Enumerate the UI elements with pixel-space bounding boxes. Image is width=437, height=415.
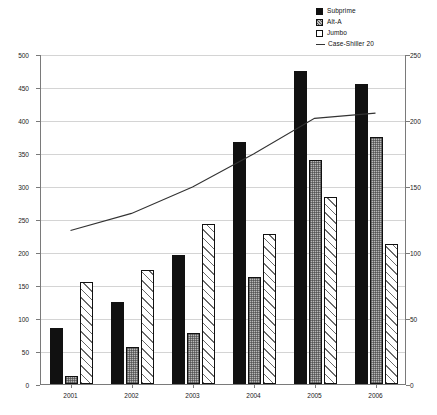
y-axis-left-tick-mark bbox=[36, 220, 40, 221]
bar-alt-a bbox=[65, 376, 78, 384]
y-axis-left-tick-mark bbox=[36, 286, 40, 287]
y-axis-left-tick-mark bbox=[36, 154, 40, 155]
bar-subprime bbox=[294, 71, 307, 385]
y-axis-left-tick-mark bbox=[36, 253, 40, 254]
y-axis-right-tick-label: 150 bbox=[410, 184, 436, 191]
y-axis-right-tick-label: 50 bbox=[410, 316, 436, 323]
y-axis-left-tick-label: 200 bbox=[0, 250, 29, 257]
y-axis-right-tick-mark bbox=[406, 385, 410, 386]
bar-jumbo bbox=[263, 234, 276, 384]
y-axis-right-tick-mark bbox=[406, 319, 410, 320]
y-axis-left-tick-label: 0 bbox=[0, 382, 29, 389]
y-axis-left-tick-mark bbox=[36, 319, 40, 320]
open-square-icon bbox=[316, 30, 323, 37]
gridline bbox=[41, 55, 405, 56]
x-axis-tick-label: 2003 bbox=[163, 392, 223, 399]
y-axis-right-tick-label: 200 bbox=[410, 118, 436, 125]
legend-label: Subprime bbox=[327, 7, 356, 15]
bar-jumbo bbox=[80, 282, 93, 384]
bar-jumbo bbox=[202, 224, 215, 384]
y-axis-right-tick-label: 100 bbox=[410, 250, 436, 257]
x-axis-tick-mark bbox=[193, 385, 194, 388]
y-axis-left-tick-label: 450 bbox=[0, 85, 29, 92]
x-axis-tick-mark bbox=[376, 385, 377, 388]
gridline bbox=[41, 319, 405, 320]
legend-label: Jumbo bbox=[327, 29, 347, 37]
gridline bbox=[41, 286, 405, 287]
y-axis-right-tick-mark bbox=[406, 121, 410, 122]
x-axis-tick-label: 2005 bbox=[285, 392, 345, 399]
x-axis-tick-mark bbox=[254, 385, 255, 388]
y-axis-left-tick-label: 350 bbox=[0, 151, 29, 158]
bar-subprime bbox=[355, 84, 368, 384]
y-axis-left-tick-label: 250 bbox=[0, 217, 29, 224]
x-axis-tick-mark bbox=[71, 385, 72, 388]
gridline bbox=[41, 154, 405, 155]
legend-item-case-shiller-20: Case-Shiller 20 bbox=[316, 39, 374, 49]
y-axis-left-tick-label: 500 bbox=[0, 52, 29, 59]
gridline bbox=[41, 220, 405, 221]
gridline bbox=[41, 88, 405, 89]
x-axis-tick-label: 2006 bbox=[346, 392, 406, 399]
plot-area bbox=[40, 55, 406, 385]
x-axis-tick-mark bbox=[132, 385, 133, 388]
legend-label: Case-Shiller 20 bbox=[328, 40, 374, 48]
y-axis-left-tick-label: 300 bbox=[0, 184, 29, 191]
x-axis-tick-label: 2001 bbox=[41, 392, 101, 399]
x-axis-tick-label: 2004 bbox=[224, 392, 284, 399]
gridline bbox=[41, 187, 405, 188]
bar-subprime bbox=[172, 255, 185, 384]
gridline bbox=[41, 352, 405, 353]
y-axis-left-tick-mark bbox=[36, 55, 40, 56]
y-axis-left-tick-mark bbox=[36, 385, 40, 386]
y-axis-left-tick-mark bbox=[36, 187, 40, 188]
bar-alt-a bbox=[248, 277, 261, 384]
bar-subprime bbox=[50, 328, 63, 384]
crosshatch-square-icon bbox=[316, 19, 323, 26]
filled-square-icon bbox=[316, 8, 323, 15]
y-axis-right-tick-label: 250 bbox=[410, 52, 436, 59]
x-axis-tick-mark bbox=[315, 385, 316, 388]
bar-jumbo bbox=[324, 197, 337, 384]
y-axis-right-tick-mark bbox=[406, 187, 410, 188]
line-marker-icon bbox=[316, 44, 325, 45]
bar-subprime bbox=[233, 142, 246, 384]
bar-jumbo bbox=[141, 270, 154, 384]
bar-alt-a bbox=[370, 137, 383, 385]
y-axis-right-tick-mark bbox=[406, 55, 410, 56]
bar-jumbo bbox=[385, 244, 398, 384]
y-axis-left-tick-label: 400 bbox=[0, 118, 29, 125]
legend-item-alt-a: Alt-A bbox=[316, 17, 374, 27]
bar-alt-a bbox=[309, 160, 322, 384]
bar-alt-a bbox=[187, 333, 200, 384]
chart-legend: Subprime Alt-A Jumbo Case-Shiller 20 bbox=[316, 6, 374, 49]
bar-alt-a bbox=[126, 347, 139, 384]
chart-container: Subprime Alt-A Jumbo Case-Shiller 20 050… bbox=[0, 0, 437, 415]
legend-item-subprime: Subprime bbox=[316, 6, 374, 16]
y-axis-left-tick-label: 150 bbox=[0, 283, 29, 290]
legend-label: Alt-A bbox=[327, 18, 342, 26]
y-axis-left-tick-label: 50 bbox=[0, 349, 29, 356]
x-axis-tick-label: 2002 bbox=[102, 392, 162, 399]
y-axis-right-tick-label: 0 bbox=[410, 382, 436, 389]
legend-item-jumbo: Jumbo bbox=[316, 28, 374, 38]
y-axis-left-tick-label: 100 bbox=[0, 316, 29, 323]
bar-subprime bbox=[111, 302, 124, 385]
y-axis-left-tick-mark bbox=[36, 121, 40, 122]
y-axis-right-tick-mark bbox=[406, 253, 410, 254]
gridline bbox=[41, 121, 405, 122]
y-axis-left-tick-mark bbox=[36, 88, 40, 89]
gridline bbox=[41, 253, 405, 254]
y-axis-left-tick-mark bbox=[36, 352, 40, 353]
